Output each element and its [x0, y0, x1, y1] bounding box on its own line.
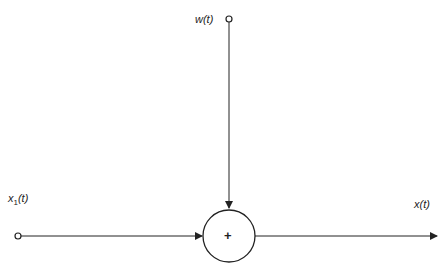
w-input-label: w(t)	[195, 14, 213, 25]
x1-input-terminal	[15, 233, 21, 239]
plus-symbol: +	[224, 229, 232, 242]
x1-input-label: x1(t)	[8, 193, 28, 207]
diagram-svg	[0, 0, 443, 274]
w-input-terminal	[226, 16, 232, 22]
x-output-label: x(t)	[414, 199, 430, 210]
x1-label-arg: (t)	[18, 192, 28, 204]
diagram-canvas: + w(t) x1(t) x(t)	[0, 0, 443, 274]
